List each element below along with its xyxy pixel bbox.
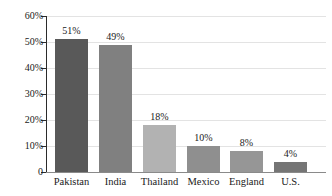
y-tick-label-30: 30%: [25, 89, 43, 99]
x-tick-label-mexico: Mexico: [179, 176, 228, 188]
bar-value-england: 8%: [230, 138, 263, 148]
x-tick-label-us: U.S.: [266, 176, 315, 188]
x-tick-label-england: England: [222, 176, 271, 188]
bar-chart: 60% 50% 40% 30% 20% 10% 0 51% 49% 18% 10…: [0, 0, 332, 196]
x-tick-label-india: India: [91, 176, 140, 188]
x-tick-label-pakistan: Pakistan: [47, 176, 96, 188]
bar-value-mexico: 10%: [187, 133, 220, 143]
x-axis-baseline: [46, 172, 326, 173]
gridline-40: [46, 68, 326, 69]
bar-thailand[interactable]: [143, 125, 176, 172]
y-tick-label-40: 40%: [25, 63, 43, 73]
bar-pakistan[interactable]: [55, 39, 88, 172]
bar-mexico[interactable]: [187, 146, 220, 172]
gridline-20: [46, 120, 326, 121]
y-tick-label-20: 20%: [25, 115, 43, 125]
bar-value-thailand: 18%: [143, 112, 176, 122]
bar-value-pakistan: 51%: [55, 26, 88, 36]
y-tick-label-10: 10%: [25, 141, 43, 151]
gridline-50: [46, 42, 326, 43]
bar-india[interactable]: [99, 45, 132, 172]
bar-value-india: 49%: [99, 32, 132, 42]
y-tick-label-0: 0: [38, 167, 43, 177]
y-axis-line: [46, 16, 47, 173]
gridline-60: [46, 16, 326, 17]
gridline-30: [46, 94, 326, 95]
bar-value-us: 4%: [274, 149, 307, 159]
x-tick-label-thailand: Thailand: [135, 176, 184, 188]
bar-us[interactable]: [274, 162, 307, 172]
y-tick-label-60: 60%: [25, 11, 43, 21]
gridline-10: [46, 146, 326, 147]
y-tick-label-50: 50%: [25, 37, 43, 47]
bar-england[interactable]: [230, 151, 263, 172]
